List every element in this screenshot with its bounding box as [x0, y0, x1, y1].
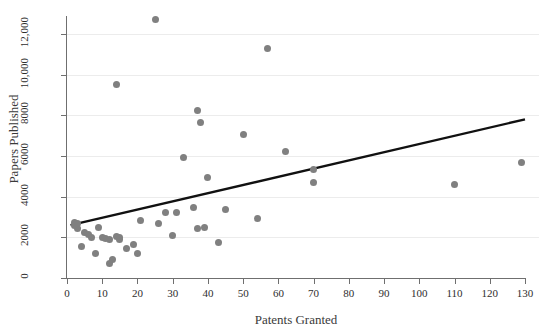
- data-point: [95, 224, 102, 231]
- chart-title: [0, 0, 549, 3]
- x-tick-label: 130: [510, 287, 540, 299]
- x-tick-label: 90: [369, 287, 399, 299]
- data-point: [106, 236, 113, 243]
- x-tick: [455, 279, 456, 284]
- x-tick: [349, 279, 350, 284]
- y-tick-label: 0: [18, 253, 30, 299]
- data-point: [240, 131, 247, 138]
- data-point: [451, 181, 458, 188]
- x-tick: [419, 279, 420, 284]
- x-tick-label: 50: [228, 287, 258, 299]
- y-tick-label: 8000: [18, 90, 30, 136]
- x-tick: [173, 279, 174, 284]
- x-tick-label: 120: [475, 287, 505, 299]
- scatter-plot-figure: Papers Published Patents Granted 0200040…: [0, 0, 549, 335]
- data-point: [180, 154, 187, 161]
- data-point: [215, 239, 222, 246]
- x-tick: [384, 279, 385, 284]
- x-tick-label: 80: [334, 287, 364, 299]
- data-point: [74, 225, 81, 232]
- y-tick-label: 10,000: [18, 50, 30, 96]
- x-tick-label: 40: [193, 287, 223, 299]
- data-point: [254, 215, 261, 222]
- x-tick: [278, 279, 279, 284]
- data-point: [264, 45, 271, 52]
- data-point: [310, 179, 317, 186]
- x-tick-label: 0: [52, 287, 82, 299]
- x-tick-label: 100: [404, 287, 434, 299]
- x-tick: [67, 279, 68, 284]
- y-tick-label: 6000: [18, 131, 30, 177]
- x-axis-title: Patents Granted: [67, 312, 525, 328]
- x-tick-label: 20: [122, 287, 152, 299]
- regression-line: [67, 16, 539, 278]
- x-tick: [102, 279, 103, 284]
- data-point: [169, 232, 176, 239]
- x-tick-label: 110: [440, 287, 470, 299]
- data-point: [194, 225, 201, 232]
- x-axis-line: [66, 278, 526, 279]
- y-tick-label: 4000: [18, 172, 30, 218]
- data-point: [155, 220, 162, 227]
- x-tick-label: 60: [263, 287, 293, 299]
- data-point: [194, 107, 201, 114]
- data-point: [518, 159, 525, 166]
- x-tick-label: 30: [158, 287, 188, 299]
- data-point: [152, 16, 159, 23]
- data-point: [78, 243, 85, 250]
- y-tick-label: 2000: [18, 212, 30, 258]
- plot-area: [67, 16, 539, 278]
- data-point: [92, 250, 99, 257]
- x-tick: [137, 279, 138, 284]
- data-point: [134, 250, 141, 257]
- data-point: [201, 224, 208, 231]
- x-tick: [208, 279, 209, 284]
- data-point: [88, 234, 95, 241]
- data-point: [310, 166, 317, 173]
- x-tick: [525, 279, 526, 284]
- x-tick: [490, 279, 491, 284]
- x-tick: [243, 279, 244, 284]
- x-tick-label: 10: [87, 287, 117, 299]
- x-tick: [314, 279, 315, 284]
- y-tick-label: 12,000: [18, 9, 30, 55]
- x-tick-label: 70: [299, 287, 329, 299]
